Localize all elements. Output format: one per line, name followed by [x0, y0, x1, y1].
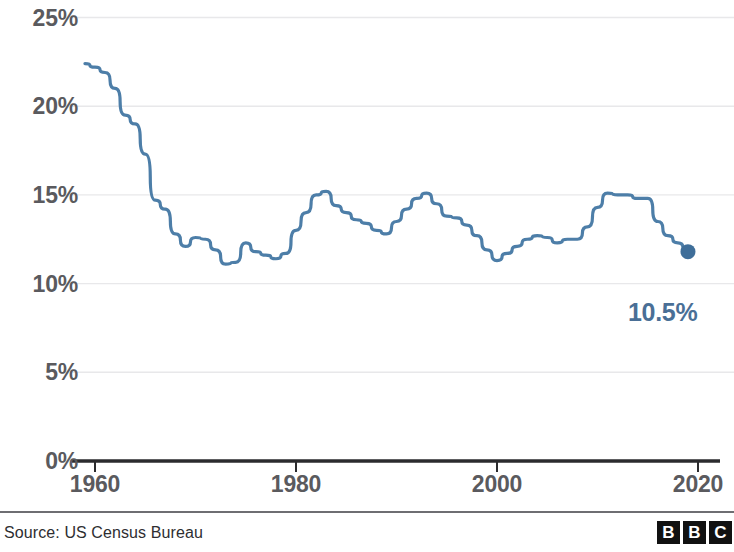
bbc-logo-letter-3: C: [709, 521, 732, 544]
source-attribution: Source: US Census Bureau: [4, 525, 203, 541]
x-axis-tick-label: 2000: [442, 473, 552, 496]
bbc-logo: BBC: [657, 521, 732, 544]
poverty-rate-line-chart: 0%5%10%15%20%25% 1960198020002020 10.5% …: [0, 0, 734, 552]
endpoint-value-label: 10.5%: [628, 300, 697, 325]
bbc-logo-letter-2: B: [683, 521, 706, 544]
x-axis-tick-label: 2020: [643, 473, 734, 496]
x-axis-tick-label: 1960: [40, 473, 150, 496]
bbc-logo-letter-1: B: [657, 521, 680, 544]
x-axis: 1960198020002020: [0, 0, 734, 505]
x-axis-tick-label: 1980: [241, 473, 351, 496]
chart-footer: Source: US Census Bureau BBC: [0, 511, 734, 552]
